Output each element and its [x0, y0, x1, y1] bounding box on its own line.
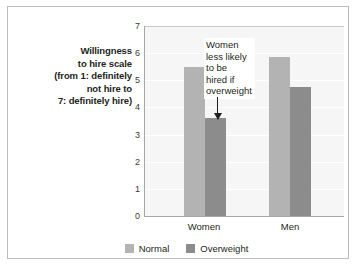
- x-axis-label-men: Men: [281, 221, 299, 232]
- y-axis-tick-6: 6: [118, 48, 140, 58]
- gridline: [145, 135, 344, 136]
- legend-item-overweight: Overweight: [186, 243, 248, 254]
- x-axis-label-women: Women: [188, 221, 221, 232]
- chart-legend: Normal Overweight: [8, 243, 357, 254]
- annotation-line: to be: [206, 62, 252, 74]
- y-axis-tick-0: 0: [118, 211, 140, 221]
- annotation-line: Women: [206, 39, 252, 51]
- chart-annotation: Women less likely to be hired if overwei…: [204, 38, 255, 99]
- bar-women-normal: [184, 67, 205, 216]
- legend-item-normal: Normal: [125, 243, 170, 254]
- figure-frame: Willingness to hire scale (from 1: defin…: [7, 6, 349, 259]
- legend-label-normal: Normal: [139, 243, 170, 254]
- y-axis-tick-3: 3: [118, 130, 140, 140]
- gridline: [145, 189, 344, 190]
- legend-label-overweight: Overweight: [200, 243, 248, 254]
- y-axis-tick-1: 1: [118, 184, 140, 194]
- bar-women-overweight: [205, 118, 226, 216]
- bar-men-overweight: [290, 87, 311, 216]
- y-axis-tick-labels: 01234567: [116, 26, 140, 216]
- annotation-line: less likely: [206, 51, 252, 63]
- plot-top-rule: [145, 26, 344, 27]
- chart-figure: Willingness to hire scale (from 1: defin…: [0, 0, 357, 267]
- gridline: [145, 162, 344, 163]
- annotation-line: overweight: [206, 85, 252, 97]
- y-axis-tick-7: 7: [118, 21, 140, 31]
- y-axis-tick-5: 5: [118, 75, 140, 85]
- y-axis-tick-4: 4: [118, 102, 140, 112]
- down-arrow-icon-head: [214, 113, 222, 120]
- gridline: [145, 107, 344, 108]
- annotation-line: hired if: [206, 74, 252, 86]
- y-axis-tick-2: 2: [118, 157, 140, 167]
- bar-men-normal: [269, 57, 290, 216]
- legend-swatch-normal: [125, 244, 134, 253]
- legend-swatch-overweight: [186, 244, 195, 253]
